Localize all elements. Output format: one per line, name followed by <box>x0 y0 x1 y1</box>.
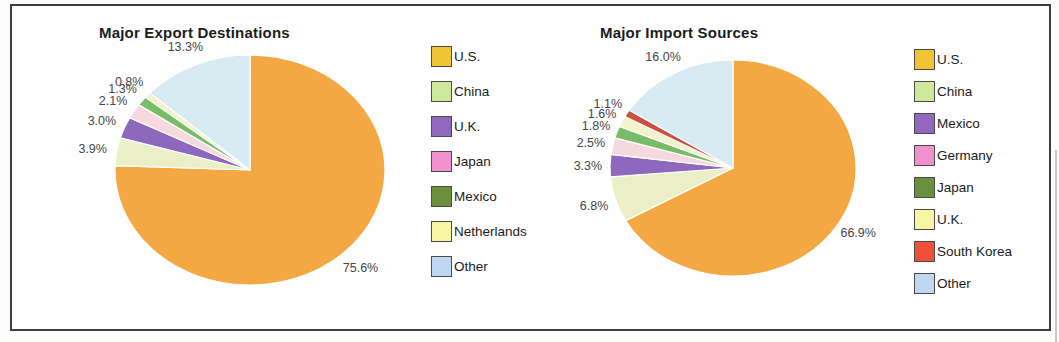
legend-row-u-k: U.K. <box>914 209 1012 230</box>
legend-row-china: China <box>431 81 527 102</box>
legend-label-u-k: U.K. <box>937 212 963 227</box>
legend-label-germany: Germany <box>937 148 993 163</box>
percent-label-china: 6.8% <box>580 199 609 213</box>
legend-swatch-other <box>914 273 935 294</box>
legend-swatch-u-s <box>914 49 935 70</box>
pie-charts-svg: 75.6%3.9%3.0%2.1%1.3%0.8%13.3%66.9%6.8%3… <box>0 0 1059 342</box>
percent-label-japan: 2.1% <box>99 94 128 108</box>
legend-row-netherlands: Netherlands <box>431 221 527 242</box>
legend-row-other: Other <box>914 273 1012 294</box>
legend-label-netherlands: Netherlands <box>454 224 527 239</box>
percent-label-u-s: 66.9% <box>840 226 875 240</box>
legend-row-mexico: Mexico <box>431 186 527 207</box>
legend-swatch-japan <box>431 151 452 172</box>
figure-canvas: Major Export Destinations Major Import S… <box>0 0 1059 342</box>
legend-row-japan: Japan <box>431 151 527 172</box>
import-legend: U.S.ChinaMexicoGermanyJapanU.K.South Kor… <box>914 49 1012 305</box>
percent-label-other: 13.3% <box>168 40 203 54</box>
legend-label-u-s: U.S. <box>937 52 963 67</box>
legend-row-china: China <box>914 81 1012 102</box>
legend-swatch-u-s <box>431 46 452 67</box>
legend-label-china: China <box>454 84 489 99</box>
export-legend: U.S.ChinaU.K.JapanMexicoNetherlandsOther <box>431 46 527 291</box>
legend-row-u-s: U.S. <box>431 46 527 67</box>
percent-label-netherlands: 0.8% <box>115 75 144 89</box>
legend-row-japan: Japan <box>914 177 1012 198</box>
percent-label-mexico: 3.3% <box>574 159 603 173</box>
legend-swatch-mexico <box>431 186 452 207</box>
legend-label-china: China <box>937 84 972 99</box>
legend-row-germany: Germany <box>914 145 1012 166</box>
legend-swatch-china <box>431 81 452 102</box>
legend-row-other: Other <box>431 256 527 277</box>
percent-label-other: 16.0% <box>645 50 680 64</box>
legend-label-japan: Japan <box>937 180 974 195</box>
legend-label-south-korea: South Korea <box>937 244 1012 259</box>
legend-label-mexico: Mexico <box>937 116 980 131</box>
legend-label-japan: Japan <box>454 154 491 169</box>
legend-swatch-netherlands <box>431 221 452 242</box>
legend-swatch-japan <box>914 177 935 198</box>
percent-label-japan: 1.8% <box>582 119 611 133</box>
legend-label-other: Other <box>454 259 488 274</box>
legend-swatch-germany <box>914 145 935 166</box>
percent-label-south-korea: 1.1% <box>594 97 623 111</box>
legend-row-mexico: Mexico <box>914 113 1012 134</box>
legend-label-other: Other <box>937 276 971 291</box>
legend-swatch-u-k <box>431 116 452 137</box>
legend-label-mexico: Mexico <box>454 189 497 204</box>
legend-row-u-s: U.S. <box>914 49 1012 70</box>
legend-swatch-u-k <box>914 209 935 230</box>
legend-swatch-other <box>431 256 452 277</box>
legend-swatch-south-korea <box>914 241 935 262</box>
legend-row-south-korea: South Korea <box>914 241 1012 262</box>
legend-swatch-mexico <box>914 113 935 134</box>
percent-label-china: 3.9% <box>78 142 107 156</box>
percent-label-u-s: 75.6% <box>343 261 378 275</box>
percent-label-germany: 2.5% <box>577 136 606 150</box>
scan-edge-artifact-line <box>1055 150 1057 342</box>
percent-label-u-k: 3.0% <box>88 114 117 128</box>
legend-swatch-china <box>914 81 935 102</box>
legend-row-u-k: U.K. <box>431 116 527 137</box>
legend-label-u-k: U.K. <box>454 119 480 134</box>
legend-label-u-s: U.S. <box>454 49 480 64</box>
